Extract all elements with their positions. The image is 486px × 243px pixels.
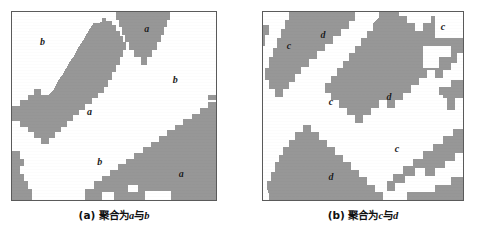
caption-a-join: 与 (134, 209, 144, 221)
panel-b-segmentation-canvas (263, 12, 463, 200)
region-label-b-1: d (321, 30, 326, 40)
region-label-b-0: c (287, 41, 291, 51)
region-label-b-2: c (441, 22, 445, 32)
caption-b-tag: (b) (328, 209, 345, 221)
region-label-a-0: b (40, 37, 45, 47)
region-label-b-6: d (329, 172, 334, 182)
caption-b-join: 与 (383, 209, 393, 221)
region-label-a-2: a (87, 107, 92, 117)
caption-a-text: 聚合为 (99, 209, 129, 221)
region-label-b-5: c (395, 144, 399, 154)
caption-b-var2: d (393, 210, 398, 221)
caption-panel-a: (a) 聚合为a与b (11, 209, 217, 223)
panel-b-cluster-map: c d c c d c d (262, 11, 464, 201)
region-label-a-1: a (144, 24, 149, 34)
region-label-b-3: c (329, 97, 333, 107)
figure-root: b a a b b a (0, 0, 486, 243)
caption-b-text: 聚合为 (348, 209, 378, 221)
region-label-a-5: a (179, 169, 184, 179)
caption-panel-b: (b) 聚合为c与d (262, 209, 464, 223)
caption-a-var2: b (144, 210, 149, 221)
caption-a-tag: (a) (79, 209, 96, 221)
panel-a-cluster-map: b a a b b a (11, 11, 217, 201)
region-label-b-4: d (387, 92, 392, 102)
region-label-a-4: b (97, 157, 102, 167)
region-label-a-3: b (173, 75, 178, 85)
